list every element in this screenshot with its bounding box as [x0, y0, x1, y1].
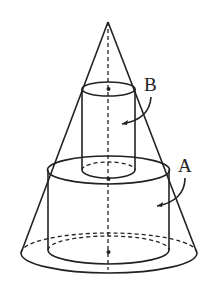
cone-base-front: [21, 253, 197, 273]
arrow-b: [122, 97, 151, 124]
center-dot-base: [107, 250, 111, 254]
center-dot-a-top: [107, 177, 111, 181]
cone-left-edge: [21, 22, 108, 253]
arrow-a: [157, 178, 185, 206]
cone-right-edge: [108, 22, 197, 253]
label-a: A: [178, 155, 192, 176]
cone-cylinders-figure: B A: [0, 0, 215, 288]
label-b: B: [144, 74, 157, 95]
center-dot-b-top: [107, 87, 111, 91]
